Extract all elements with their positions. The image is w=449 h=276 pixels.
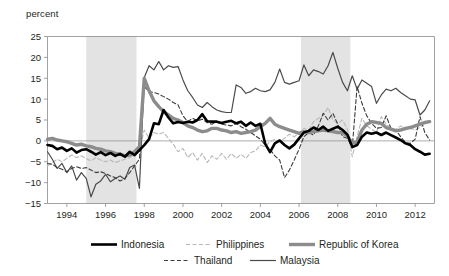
x-tick-label: 2002: [211, 209, 232, 220]
line-chart: −15−10−50510152025 199419961998200020022…: [0, 0, 449, 276]
y-tick-label: 20: [30, 52, 41, 63]
legend-label-thailand: Thailand: [194, 255, 232, 266]
x-tick-label: 2008: [327, 209, 348, 220]
x-tick-label: 1996: [95, 209, 116, 220]
y-tick-label: −5: [30, 156, 41, 167]
y-tick-label: 10: [30, 94, 41, 105]
legend-label-indonesia: Indonesia: [121, 239, 165, 250]
legend-label-philippines: Philippines: [216, 239, 264, 250]
x-tick-label: 2000: [172, 209, 193, 220]
shaded-band: [86, 37, 136, 204]
y-tick-label: 0: [36, 135, 41, 146]
y-tick-label: −10: [25, 177, 41, 188]
x-tick-label: 2006: [288, 209, 309, 220]
x-tick-label: 1994: [56, 209, 77, 220]
chart-legend: IndonesiaPhilippinesRepublic of KoreaTha…: [91, 239, 399, 266]
x-tick-label: 2012: [405, 209, 426, 220]
legend-label-malaysia: Malaysia: [280, 255, 320, 266]
x-tick-label: 2010: [366, 209, 387, 220]
y-tick-label: −15: [25, 198, 41, 209]
y-tick-label: 5: [36, 114, 41, 125]
y-axis-unit-label: percent: [26, 8, 58, 19]
y-tick-label: 25: [30, 31, 41, 42]
chart-container: percent −15−10−50510152025 1994199619982…: [0, 0, 449, 276]
x-tick-label: 1998: [134, 209, 155, 220]
x-tick-labels-group: 1994199619982000200220042006200820102012: [56, 209, 425, 220]
y-tick-labels-group: −15−10−50510152025: [25, 31, 41, 209]
legend-label-republic-of-korea: Republic of Korea: [319, 239, 399, 250]
x-tick-label: 2004: [250, 209, 271, 220]
y-tick-label: 15: [30, 73, 41, 84]
